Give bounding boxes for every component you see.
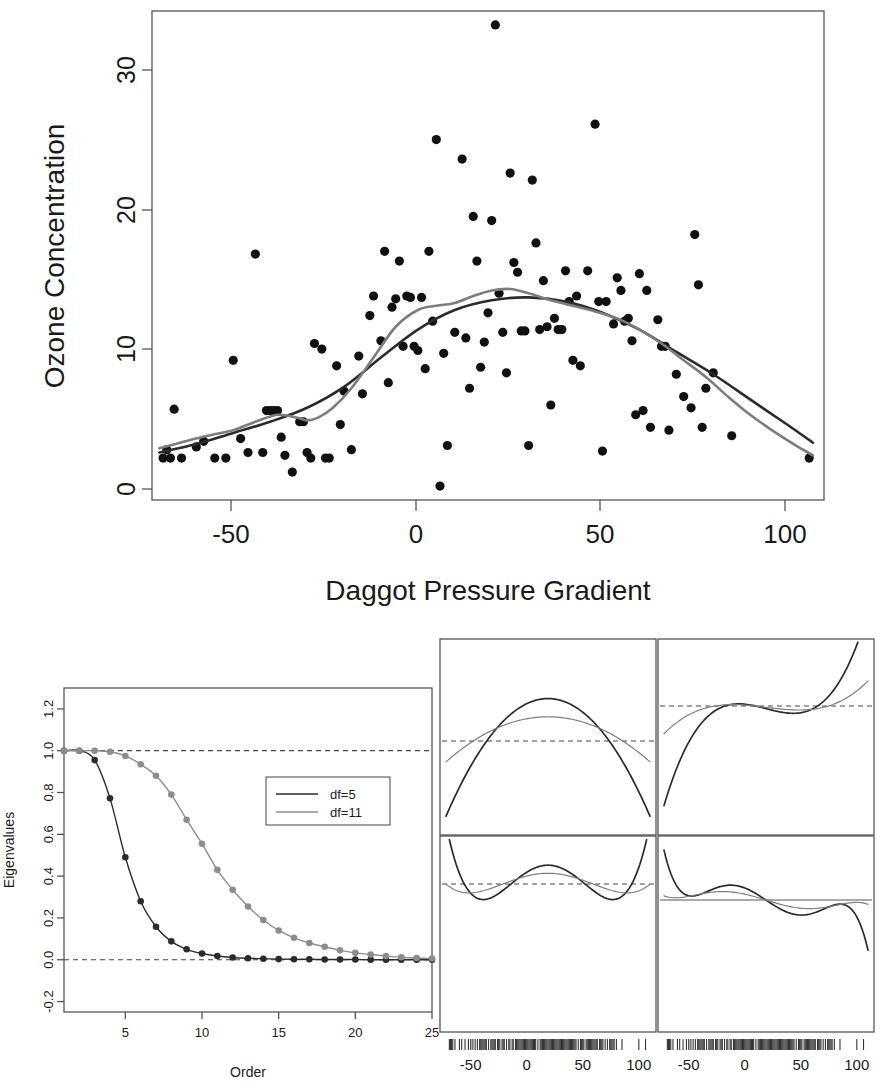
scatter-point	[701, 384, 710, 393]
scatter-point	[602, 297, 611, 306]
basis-curve-bottom-left-df=11	[446, 873, 650, 893]
scatter-point	[590, 120, 599, 129]
scatter-point	[325, 453, 334, 462]
scatter-point	[229, 356, 238, 365]
scatter-point	[686, 403, 695, 412]
eigen-marker	[91, 757, 98, 764]
scatter-point	[421, 364, 430, 373]
scatter-point	[391, 294, 400, 303]
scatter-point	[627, 336, 636, 345]
scatter-point	[461, 333, 470, 342]
eigen-marker	[245, 903, 252, 910]
eigen-ytick-label: 1.0	[41, 742, 56, 760]
eigen-marker	[107, 748, 114, 755]
scatter-point	[583, 266, 592, 275]
scatter-point	[435, 481, 444, 490]
scatter-point	[487, 216, 496, 225]
scatter-point	[480, 338, 489, 347]
eigen-marker	[229, 954, 236, 961]
scatter-point	[483, 308, 492, 317]
basis-functions-svg: -50050100 -50050100	[436, 625, 880, 1092]
eigen-legend[interactable]: df=5 df=11	[266, 777, 390, 825]
scatter-point	[727, 431, 736, 440]
scatter-point	[380, 247, 389, 256]
scatter-point	[638, 406, 647, 415]
scatter-point	[424, 247, 433, 256]
scatter-point	[210, 453, 219, 462]
basis-xtick-label: 50	[574, 1056, 591, 1073]
basis-curve-group	[446, 642, 868, 950]
scatter-point	[679, 392, 688, 401]
eigen-marker	[122, 753, 129, 760]
eigen-marker	[76, 747, 83, 754]
scatter-point	[598, 447, 607, 456]
scatter-point	[642, 286, 651, 295]
scatter-point	[513, 268, 522, 277]
eigen-ytick-label: 0.8	[41, 783, 56, 801]
basis-curve-bottom-left-df=5	[449, 840, 646, 900]
scatter-point	[694, 280, 703, 289]
scatter-point	[358, 389, 367, 398]
eigen-marker	[291, 956, 298, 963]
basis-curve-top-right-df=11	[664, 681, 868, 734]
basis-xtick-label: -50	[460, 1056, 482, 1073]
ozone-scatter-svg: 0 10 20 30 Ozone Concentration -50 0 50 …	[0, 0, 880, 620]
eigen-marker	[337, 956, 344, 963]
scatter-point	[458, 155, 467, 164]
basis-xtick-label: -50	[678, 1056, 700, 1073]
scatter-point	[502, 368, 511, 377]
eigen-marker	[153, 772, 160, 779]
scatter-point	[332, 361, 341, 370]
scatter-point	[432, 135, 441, 144]
eigen-y-axis: -0.20.00.20.40.60.81.01.2	[41, 700, 64, 1013]
scatter-point	[646, 423, 655, 432]
basis-subplot-frame-top-right	[658, 639, 874, 835]
scatter-point	[317, 345, 326, 354]
eigen-marker	[153, 923, 160, 930]
basis-xtick-label: 50	[792, 1056, 809, 1073]
eigenvalues-svg: -0.20.00.20.40.60.81.01.2 Eigenvalues 51…	[0, 625, 440, 1092]
eigen-marker	[122, 854, 129, 861]
basis-curve-top-right-df=5	[664, 642, 858, 805]
eigen-marker	[91, 747, 98, 754]
eigen-marker	[229, 886, 236, 893]
eigen-marker	[199, 840, 206, 847]
scatter-point	[166, 453, 175, 462]
scatter-point	[698, 423, 707, 432]
scatter-point	[365, 311, 374, 320]
figure-root: 0 10 20 30 Ozone Concentration -50 0 50 …	[0, 0, 880, 1092]
eigen-marker	[183, 946, 190, 953]
basis-xtick-label: 100	[844, 1056, 869, 1073]
eigen-marker	[275, 927, 282, 934]
scatter-point	[476, 363, 485, 372]
scatter-point	[413, 346, 422, 355]
ozone-xtick-0: 0	[409, 519, 423, 549]
eigen-xtick-label: 10	[195, 1025, 209, 1040]
eigen-ytick-label: 0.2	[41, 909, 56, 927]
ozone-xtick-50: 50	[586, 519, 615, 549]
eigen-marker	[275, 956, 282, 963]
ozone-ytick-30: 30	[112, 56, 140, 84]
eigen-marker	[321, 956, 328, 963]
eigen-marker	[260, 917, 267, 924]
legend-label-df5: df=5	[330, 787, 356, 802]
eigen-marker	[168, 791, 175, 798]
scatter-point	[369, 291, 378, 300]
eigen-marker	[137, 898, 144, 905]
eigen-plot-frame	[64, 688, 432, 1012]
eigen-marker	[107, 795, 114, 802]
scatter-point	[450, 328, 459, 337]
ozone-ytick-0: 0	[112, 482, 140, 496]
basis-subplot-frame-bottom-right	[658, 836, 874, 1032]
eigen-marker	[61, 747, 68, 754]
scatter-point	[506, 168, 515, 177]
eigen-ytick-label: 0.4	[41, 867, 56, 885]
eigen-marker	[245, 955, 252, 962]
scatter-point	[347, 445, 356, 454]
eigen-xtick-label: 5	[122, 1025, 129, 1040]
eigen-ytick-label: -0.2	[41, 990, 56, 1012]
ozone-y-axis: 0 10 20 30	[112, 56, 152, 496]
ozone-ytick-20: 20	[112, 196, 140, 224]
rug-plot-right	[667, 1039, 863, 1050]
scatter-point	[354, 351, 363, 360]
